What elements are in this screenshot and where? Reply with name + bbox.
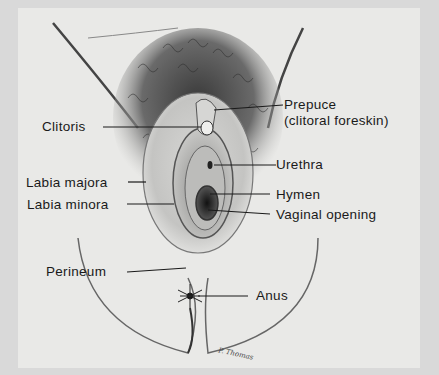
label-hymen: Hymen bbox=[276, 188, 320, 202]
label-vaginal-opening: Vaginal opening bbox=[276, 208, 376, 222]
label-prepuce: Prepuce bbox=[284, 98, 336, 112]
anatomy-figure: Prepuce (clitoral foreskin) Clitoris Ure… bbox=[18, 8, 420, 368]
label-labia-majora: Labia majora bbox=[26, 176, 108, 190]
label-clitoris: Clitoris bbox=[42, 120, 86, 134]
label-labia-minora: Labia minora bbox=[27, 198, 109, 212]
urethra-shape bbox=[208, 161, 213, 169]
vaginal-opening-shape bbox=[196, 186, 218, 220]
clitoris-shape bbox=[201, 121, 213, 135]
label-prepuce-sub: (clitoral foreskin) bbox=[284, 114, 389, 128]
label-perineum: Perineum bbox=[46, 265, 106, 279]
label-anus: Anus bbox=[256, 289, 288, 303]
label-urethra: Urethra bbox=[276, 158, 323, 172]
